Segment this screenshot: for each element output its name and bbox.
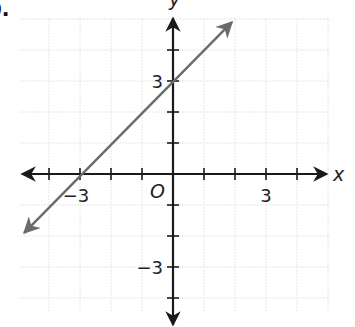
y-tick-label: −3 bbox=[136, 257, 163, 278]
y-axis-label: y bbox=[168, 0, 181, 10]
data-series bbox=[24, 22, 232, 233]
axes bbox=[22, 18, 327, 325]
x-tick-label: 3 bbox=[260, 185, 271, 206]
origin-label: O bbox=[150, 180, 165, 202]
y-tick-label: 3 bbox=[152, 71, 163, 92]
grid-lines bbox=[20, 18, 330, 312]
line-y-equals-x-plus-3 bbox=[24, 22, 232, 233]
x-axis-label: x bbox=[332, 163, 345, 185]
coordinate-plane: −333−3xyO bbox=[0, 0, 355, 327]
x-tick-label: −3 bbox=[63, 185, 90, 206]
